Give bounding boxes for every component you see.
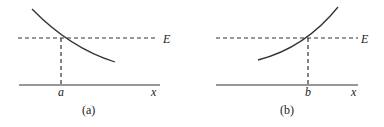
energy-label: E	[162, 32, 171, 46]
axis-label: x	[150, 85, 157, 99]
caption: (b)	[280, 103, 294, 117]
decreasing-curve	[32, 9, 115, 62]
point-label: b	[305, 85, 311, 99]
point-label: a	[58, 85, 64, 99]
energy-label: E	[360, 32, 369, 46]
axis-label: x	[350, 85, 357, 99]
diagram: E a x (a) E b x (b)	[0, 0, 384, 127]
panel-a: E a x (a)	[18, 9, 171, 117]
caption: (a)	[82, 103, 95, 117]
panel-b: E b x (b)	[216, 7, 369, 117]
increasing-curve	[258, 7, 338, 60]
